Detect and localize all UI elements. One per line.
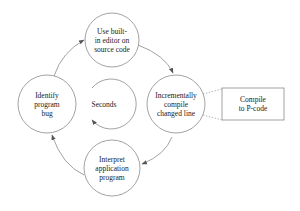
node-compile-line-2: compile <box>164 100 188 109</box>
node-interpret-line-1: Interpret <box>99 155 125 164</box>
center-label: Seconds <box>84 98 124 110</box>
side-box-line-1: Compile <box>240 95 266 104</box>
node-compile-line-1: Incrementally <box>155 91 197 100</box>
node-interpret-line-2: application <box>95 164 128 173</box>
edge-identify-to-edit <box>54 40 84 76</box>
node-identify-label: Identify program bug <box>17 86 77 122</box>
node-edit-line-1: Use built- <box>97 27 127 36</box>
node-interpret-label: Interpret application program <box>82 150 142 186</box>
node-identify-line-3: bug <box>41 109 52 118</box>
cycle-diagram: Use built- in editor on source code Incr… <box>0 0 300 211</box>
node-interpret-line-3: program <box>99 173 124 182</box>
node-edit-label: Use built- in editor on source code <box>82 22 142 58</box>
edge-edit-to-compile <box>138 45 173 73</box>
node-edit-line-3: source code <box>94 45 130 54</box>
center-label-text: Seconds <box>92 100 117 109</box>
node-compile-line-3: changed line <box>157 109 195 118</box>
node-identify-line-1: Identify <box>35 91 59 100</box>
edge-interpret-to-identify <box>52 135 84 175</box>
node-identify-line-2: program <box>34 100 59 109</box>
edge-compile-to-interpret <box>142 137 172 164</box>
node-compile-label: Incrementally compile changed line <box>144 86 208 122</box>
side-box-label: Compile to P-code <box>222 88 284 120</box>
side-box-line-2: to P-code <box>239 104 268 113</box>
node-edit-line-2: in editor on <box>95 36 130 45</box>
